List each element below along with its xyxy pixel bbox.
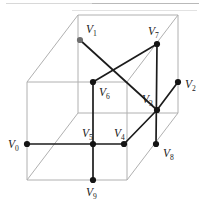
graph-edge-v6-v7	[93, 44, 157, 82]
vertex-label-subscript: 8	[170, 153, 174, 162]
vertex-labels: V0V1V2V3V4V5V6V7V8V9	[8, 23, 196, 201]
vertex-dot-v1	[77, 37, 83, 43]
vertex-label-v2: V2	[185, 78, 196, 93]
graph-edge-v4-v3	[124, 110, 157, 144]
vertex-label-subscript: 6	[106, 92, 110, 101]
vertex-label-v9: V9	[86, 186, 97, 201]
vertex-label-v5: V5	[82, 127, 93, 142]
vertex-dot-v8	[153, 141, 159, 147]
vertex-dot-v7	[154, 41, 160, 47]
vertex-label-v6: V6	[99, 86, 110, 101]
vertex-label-v7: V7	[148, 25, 159, 40]
vertex-label-v4: V4	[114, 127, 125, 142]
vertex-dot-v6	[90, 79, 96, 85]
vertex-dot-v9	[90, 177, 96, 183]
diagram-canvas: V0V1V2V3V4V5V6V7V8V9	[0, 0, 205, 208]
graph-edge-v3-v2	[157, 82, 178, 110]
vertex-label-v3: V3	[142, 93, 153, 108]
vertex-label-subscript: 4	[121, 133, 125, 142]
vertex-label-v1: V1	[86, 23, 97, 38]
graph-edge-v7-v8	[156, 44, 157, 144]
vertex-label-subscript: 7	[155, 31, 159, 40]
cube-wire-edge	[27, 15, 78, 82]
cube-vertex-diagram: V0V1V2V3V4V5V6V7V8V9	[0, 0, 205, 208]
cube-wire-edge	[127, 113, 178, 180]
vertex-label-v8: V8	[163, 147, 174, 162]
vertex-label-subscript: 9	[93, 192, 97, 201]
vertex-dot-v0	[24, 141, 30, 147]
vertex-label-subscript: 0	[15, 144, 19, 153]
vertex-label-subscript: 1	[93, 29, 97, 38]
vertex-label-subscript: 2	[192, 84, 196, 93]
vertex-dot-v3	[154, 107, 160, 113]
cube-wire-edge	[27, 113, 78, 180]
vertex-label-subscript: 3	[149, 99, 153, 108]
vertex-dot-v2	[175, 79, 181, 85]
vertex-label-subscript: 5	[89, 133, 93, 142]
vertex-label-v0: V0	[8, 138, 19, 153]
